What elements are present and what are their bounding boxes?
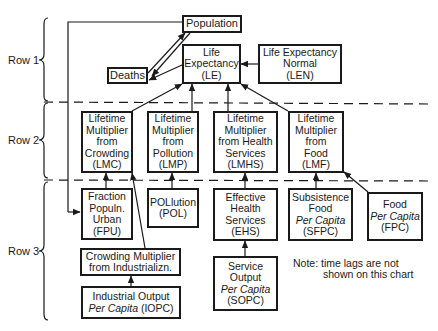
- node-label: (LMHS): [227, 159, 263, 171]
- node-label: from Industrializn.: [89, 262, 172, 274]
- chart-note: Note: time lags are not shown on this ch…: [293, 258, 413, 280]
- node-life-expectancy-normal: Life Expectancy Normal (LEN): [258, 44, 342, 84]
- node-label: (FPC): [381, 222, 409, 234]
- node-label: (FPU): [93, 226, 121, 238]
- node-label: (LE): [202, 70, 222, 82]
- node-sopc: Service Output Per Capita (SOPC): [213, 256, 278, 311]
- node-iopc: Industrial Output Per Capita (IOPC): [81, 286, 181, 319]
- node-label: Population: [186, 18, 238, 30]
- row-2-label: Row 2: [8, 134, 39, 146]
- brace-row-1: [39, 18, 48, 101]
- node-label: (LMP): [159, 159, 188, 171]
- node-label: (EHS): [231, 226, 260, 238]
- node-pol: POLlution (POL): [147, 188, 199, 228]
- node-fpc: Food Per Capita (FPC): [367, 192, 423, 241]
- node-ehs: Effective Health Services (EHS): [213, 188, 278, 241]
- node-label: Output: [230, 272, 262, 284]
- note-line-2: shown on this chart: [293, 269, 413, 280]
- node-life-expectancy: Life Expectancy (LE): [182, 44, 241, 84]
- node-lmf: Lifetime Multiplier from Food (LMF): [288, 111, 344, 173]
- node-lmhs: Lifetime Multiplier from Health Services…: [213, 111, 278, 173]
- node-label: (SOPC): [227, 295, 264, 307]
- node-deaths: Deaths: [107, 67, 148, 84]
- node-sfpc: Subsistence Food Per Capita (SFPC): [288, 188, 353, 241]
- row-3-label: Row 3: [8, 245, 39, 257]
- node-label: Urban: [93, 214, 122, 226]
- brace-row-2: [39, 103, 48, 178]
- node-label-italic: Per Capita: [88, 302, 138, 314]
- node-crowding-multiplier: Crowding Multiplier from Industrializn.: [80, 248, 181, 276]
- brace-row-3: [39, 182, 48, 320]
- node-label: Health: [230, 203, 260, 215]
- node-label: (SFPC): [303, 226, 338, 238]
- node-label: Food: [309, 203, 333, 215]
- row-separator-2: [44, 180, 430, 181]
- row-separator-1: [44, 102, 430, 104]
- node-label: Per Capita (IOPC): [88, 303, 173, 315]
- node-label: (LEN): [286, 70, 313, 82]
- node-population: Population: [182, 15, 242, 33]
- node-label: Fraction: [88, 191, 126, 203]
- node-label: (LMF): [302, 159, 330, 171]
- node-fpu: Fraction Populn. Urban (FPU): [81, 188, 133, 240]
- node-label: Deaths: [110, 70, 145, 82]
- node-label: (LMC): [92, 159, 121, 171]
- node-label: (POL): [159, 208, 187, 220]
- node-lmp: Lifetime Multiplier from Pollution (LMP): [147, 111, 199, 173]
- node-label-rest: (IOPC): [138, 302, 174, 314]
- node-lmc: Lifetime Multiplier from Crowding (LMC): [81, 111, 133, 173]
- row-1-label: Row 1: [8, 54, 39, 66]
